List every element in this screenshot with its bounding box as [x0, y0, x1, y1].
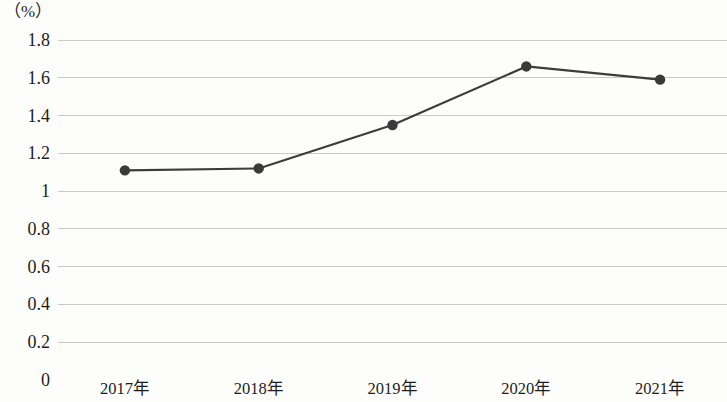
- data-point-marker: 2018年: 1.12: [254, 163, 264, 173]
- data-series-layer: 2017年: 1.112018年: 1.122019年: 1.352020年: …: [58, 40, 727, 380]
- series-line: [125, 66, 660, 170]
- y-axis-tick-label: 0.8: [2, 220, 50, 238]
- plot-area: 2017年: 1.112018年: 1.122019年: 1.352020年: …: [58, 40, 727, 380]
- x-axis-tick-label: 2021年: [635, 378, 685, 400]
- data-point-marker: 2017年: 1.11: [120, 165, 130, 175]
- y-axis-tick-label: 1.2: [2, 144, 50, 162]
- y-axis-tick-label: 0.4: [2, 295, 50, 313]
- x-axis-tick-label: 2017年: [100, 378, 150, 400]
- y-axis-tick-label: 1: [2, 182, 50, 200]
- y-axis-tick-labels: 1.81.61.41.210.80.60.40.20: [0, 0, 50, 402]
- x-axis-tick-label: 2018年: [234, 378, 284, 400]
- data-point-marker: 2019年: 1.35: [387, 120, 397, 130]
- y-axis-tick-label: 0.6: [2, 258, 50, 276]
- data-point-marker: 2020年: 1.66: [521, 61, 531, 71]
- line-chart: （%） 1.81.61.41.210.80.60.40.20 2017年: 1.…: [0, 0, 727, 402]
- x-axis-tick-label: 2020年: [501, 378, 551, 400]
- y-axis-tick-label: 1.6: [2, 69, 50, 87]
- x-axis-tick-labels: 2017年2018年2019年2020年2021年: [0, 378, 727, 402]
- y-axis-tick-label: 1.4: [2, 107, 50, 125]
- x-axis-tick-label: 2019年: [368, 378, 418, 400]
- y-axis-tick-label: 0.2: [2, 333, 50, 351]
- data-point-marker: 2021年: 1.59: [655, 74, 665, 84]
- y-axis-tick-label: 1.8: [2, 31, 50, 49]
